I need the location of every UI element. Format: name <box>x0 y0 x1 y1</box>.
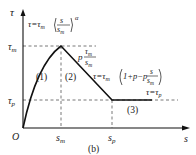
right-paren-icon <box>159 69 161 85</box>
svg-text:τ=τm: τ=τm <box>28 19 46 30</box>
segment-3-label: (3) <box>127 105 138 116</box>
tau-p-tick-label: τp <box>8 95 16 108</box>
left-paren-icon <box>55 18 57 32</box>
svg-text:p: p <box>77 52 83 62</box>
slope-label: p τm sm <box>77 47 96 68</box>
svg-text:s: s <box>150 67 153 76</box>
svg-text:sm: sm <box>147 76 154 86</box>
x-axis-label: s <box>184 133 188 144</box>
tau-m-tick-label: τm <box>8 41 17 54</box>
bond-slip-diagram: τ s O τm τp sm sp τ=τm s sm α p τm sm <box>0 0 196 155</box>
origin-label: O <box>12 131 19 142</box>
left-paren-icon <box>120 69 122 85</box>
svg-text:α: α <box>75 14 79 21</box>
svg-text:sm: sm <box>57 25 64 35</box>
figure-caption: (b) <box>88 144 99 155</box>
svg-text:τm: τm <box>85 47 92 57</box>
x-axis-arrow-icon <box>182 126 190 131</box>
equation-segment-1: τ=τm s sm α <box>28 14 79 35</box>
equation-segment-2: τ=τm 1+p−p s sm <box>93 67 161 86</box>
svg-text:sm: sm <box>85 58 92 68</box>
svg-text:1+p−p: 1+p−p <box>123 71 147 81</box>
equation-segment-3: τ=τp <box>146 87 162 98</box>
right-paren-icon <box>71 18 73 32</box>
segment-2-label: (2) <box>65 72 76 83</box>
svg-text:τ=τm: τ=τm <box>93 71 111 82</box>
s-m-tick-label: sm <box>56 132 65 145</box>
y-axis-label: τ <box>10 6 15 18</box>
y-axis-arrow-icon <box>21 9 26 16</box>
svg-text:s: s <box>60 16 63 25</box>
s-p-tick-label: sp <box>108 132 116 145</box>
segment-1-label: (1) <box>36 72 47 83</box>
